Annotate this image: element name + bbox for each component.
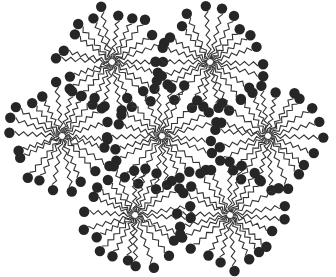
- surfactant-tail: [193, 217, 227, 244]
- surfactant-head: [254, 247, 264, 257]
- surfactant-head: [184, 167, 194, 177]
- surfactant-head: [95, 246, 105, 256]
- surfactant-tail: [220, 218, 231, 257]
- surfactant-tail: [21, 108, 59, 134]
- surfactant-head: [99, 142, 109, 152]
- surfactant-head: [166, 83, 176, 93]
- surfactant-head: [167, 176, 177, 186]
- surfactant-head: [215, 155, 225, 165]
- surfactant-head: [89, 192, 99, 202]
- surfactant-head: [217, 3, 227, 13]
- surfactant-tail: [63, 102, 81, 134]
- surfactant-head: [123, 255, 133, 265]
- surfactant-head: [237, 161, 247, 171]
- surfactant-head: [37, 91, 47, 101]
- surfactant-head: [23, 173, 33, 183]
- surfactant-head: [149, 263, 159, 273]
- surfactant-head: [318, 132, 328, 142]
- surfactant-head: [201, 1, 211, 11]
- surfactant-head: [309, 148, 319, 158]
- surfactant-head: [120, 172, 130, 182]
- surfactant-head: [206, 165, 216, 175]
- surfactant-head: [206, 136, 216, 146]
- surfactant-head: [169, 95, 179, 105]
- surfactant-head: [76, 91, 86, 101]
- surfactant-head: [13, 146, 23, 156]
- surfactant-head: [204, 107, 214, 117]
- surfactant-head: [129, 166, 139, 176]
- surfactant-head: [273, 183, 283, 193]
- surfactant-head: [73, 19, 83, 29]
- surfactant-head: [215, 142, 225, 152]
- surfactant-head: [79, 225, 89, 235]
- surfactant-head: [299, 160, 309, 170]
- surfactant-head: [96, 2, 106, 12]
- surfactant-tail: [136, 218, 152, 264]
- surfactant-head: [236, 94, 246, 104]
- surfactant-tail: [270, 99, 294, 134]
- micelle-diagram: [0, 0, 336, 277]
- surfactant-head: [215, 257, 225, 267]
- surfactant-head: [65, 71, 75, 81]
- surfactant-head: [79, 207, 89, 217]
- surfactant-head: [224, 157, 234, 167]
- surfactant-head: [59, 46, 69, 56]
- surfactant-tail: [189, 18, 209, 60]
- surfactant-tail: [233, 191, 276, 213]
- surfactant-head: [109, 161, 119, 171]
- surfactant-head: [102, 117, 112, 127]
- surfactant-head: [122, 93, 132, 103]
- surfactant-head: [177, 232, 187, 242]
- surfactant-head: [216, 118, 226, 128]
- surfactant-head: [158, 43, 168, 53]
- surfactant-head: [235, 24, 245, 34]
- surfactant-head: [165, 32, 175, 42]
- micelle-diagram-canvas: [0, 0, 336, 277]
- surfactant-head: [229, 266, 239, 276]
- micelle-top-right: [150, 1, 268, 116]
- surfactant-head: [102, 132, 112, 142]
- surfactant-head: [127, 13, 137, 23]
- micelle-middle-right: [210, 81, 328, 196]
- surfactant-tail: [210, 65, 219, 103]
- surfactant-head: [113, 10, 123, 20]
- surfactant-head: [70, 29, 80, 39]
- surfactant-head: [251, 42, 261, 52]
- surfactant-tail: [205, 11, 212, 59]
- surfactant-head: [140, 164, 150, 174]
- surfactant-head: [92, 182, 102, 192]
- surfactant-head: [110, 144, 120, 154]
- surfactant-head: [186, 181, 196, 191]
- surfactant-head: [247, 88, 257, 98]
- surfactant-head: [192, 95, 202, 105]
- surfactant-head: [76, 177, 86, 187]
- surfactant-head: [186, 243, 196, 253]
- micelle-middle-left: [4, 77, 114, 197]
- surfactant-head: [256, 81, 266, 91]
- surfactant-tail: [271, 123, 315, 136]
- surfactant-head: [67, 86, 77, 96]
- surfactant-tail: [213, 174, 229, 212]
- surfactant-head: [280, 201, 290, 211]
- surfactant-tail: [271, 137, 308, 154]
- surfactant-head: [164, 251, 174, 261]
- surfactant-head: [283, 184, 293, 194]
- surfactant-head: [236, 174, 246, 184]
- surfactant-head: [152, 76, 162, 86]
- surfactant-head: [117, 105, 127, 115]
- surfactant-head: [151, 168, 161, 178]
- surfactant-tail: [133, 218, 137, 261]
- surfactant-head: [294, 94, 304, 104]
- surfactant-head: [217, 98, 227, 108]
- surfactant-head: [177, 21, 187, 31]
- surfactant-head: [307, 103, 317, 113]
- surfactant-head: [256, 176, 266, 186]
- surfactant-head: [5, 113, 15, 123]
- surfactant-head: [92, 232, 102, 242]
- surfactant-head: [51, 53, 61, 63]
- surfactant-head: [267, 226, 277, 236]
- surfactant-head: [107, 251, 117, 261]
- surfactant-head: [279, 214, 289, 224]
- surfactant-head: [182, 9, 192, 19]
- surfactant-head: [114, 119, 124, 129]
